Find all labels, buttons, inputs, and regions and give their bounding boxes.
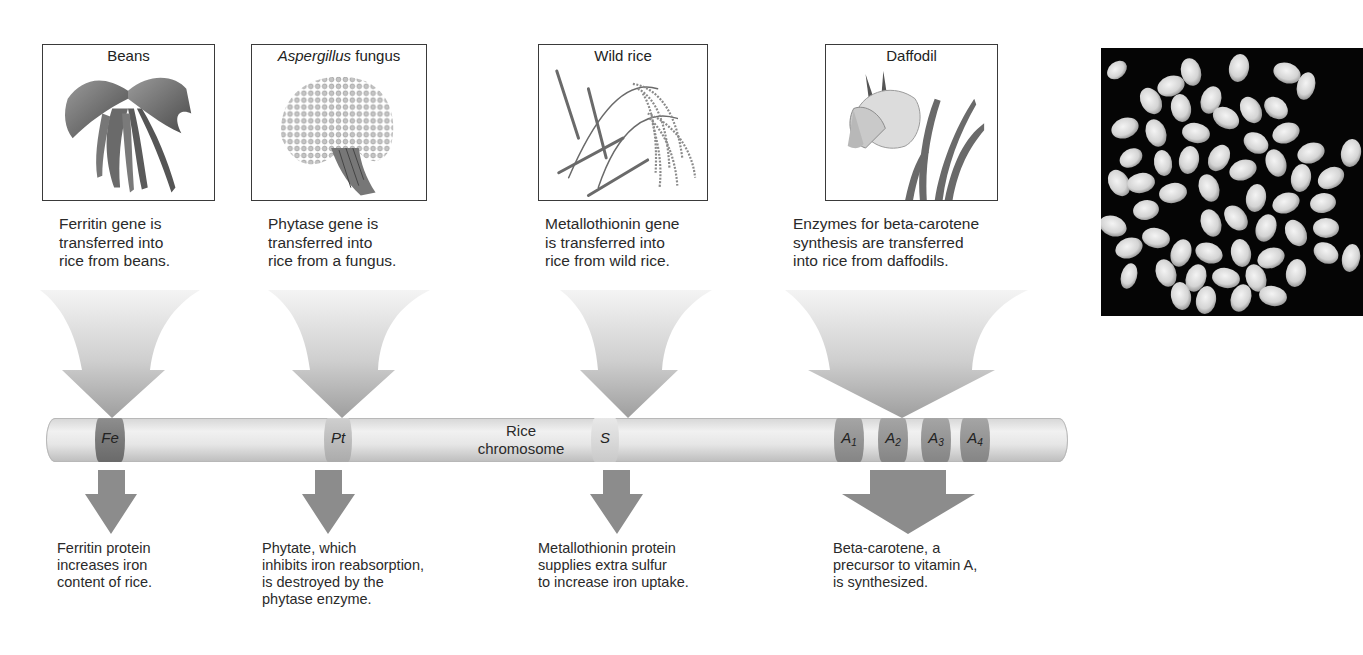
cropped-caption-fragment [0, 0, 1363, 5]
transfer-arrow-wild-rice [560, 290, 712, 418]
wild-rice-illustration [539, 69, 707, 200]
transfer-arrows [0, 290, 1080, 420]
outcome-metallothionin: Metallothionin protein supplies extra su… [538, 540, 689, 591]
source-description-aspergillus: Phytase gene is transferred into rice fr… [268, 215, 396, 271]
aspergillus-fungus-illustration [252, 69, 426, 200]
source-description-daffodil: Enzymes for beta-carotene synthesis are … [793, 215, 979, 271]
output-arrow-ferritin [85, 470, 137, 534]
gene-band-pt: Pt [324, 418, 352, 462]
transfer-arrow-beans [40, 290, 200, 418]
gene-band-a1: A1 [834, 418, 864, 462]
gene-label: S [591, 429, 619, 448]
output-arrow-metallothionin [590, 470, 643, 534]
transfer-arrow-aspergillus [268, 290, 430, 418]
rice-chromosome: Fe Pt Rice chromosome S A1 A2 A3 A4 [46, 418, 1068, 462]
source-title: Beans [43, 47, 214, 64]
outcome-phytase: Phytate, which inhibits iron reabsorptio… [262, 540, 424, 608]
gene-label: A2 [878, 429, 908, 448]
gene-band-a3: A3 [921, 418, 951, 462]
source-title: Wild rice [539, 47, 707, 64]
gene-band-a4: A4 [960, 418, 990, 462]
source-box-daffodil: Daffodil [825, 44, 998, 201]
source-title: Aspergillus fungus [252, 47, 426, 64]
output-arrow-beta-carotene [842, 470, 975, 534]
rice-grains-image [1101, 48, 1363, 316]
outcome-ferritin: Ferritin protein increases iron content … [57, 540, 152, 591]
source-box-aspergillus: Aspergillus fungus [251, 44, 427, 201]
source-description-beans: Ferritin gene is transferred into rice f… [59, 215, 170, 271]
gene-label: A3 [921, 429, 951, 448]
gene-band-fe: Fe [95, 418, 125, 462]
source-box-wild-rice: Wild rice [538, 44, 708, 201]
source-description-wild-rice: Metallothionin gene is transferred into … [545, 215, 679, 271]
transfer-arrow-daffodil [785, 290, 1028, 418]
gene-label: Pt [324, 429, 352, 448]
chromosome-label: Rice chromosome [456, 422, 586, 458]
source-box-beans: Beans [42, 44, 215, 201]
source-title: Daffodil [826, 47, 997, 64]
gene-band-a2: A2 [878, 418, 908, 462]
output-arrows [0, 470, 1080, 536]
gene-label: A4 [960, 429, 990, 448]
bean-plant-illustration [43, 69, 214, 200]
gene-label: Fe [95, 429, 125, 448]
daffodil-illustration [826, 69, 997, 200]
gene-label: A1 [834, 429, 864, 448]
gene-band-s: S [591, 418, 619, 462]
outcome-beta-carotene: Beta-carotene, a precursor to vitamin A,… [833, 540, 977, 591]
rice-grains-photo [1101, 48, 1363, 316]
output-arrow-phytase [302, 470, 355, 534]
